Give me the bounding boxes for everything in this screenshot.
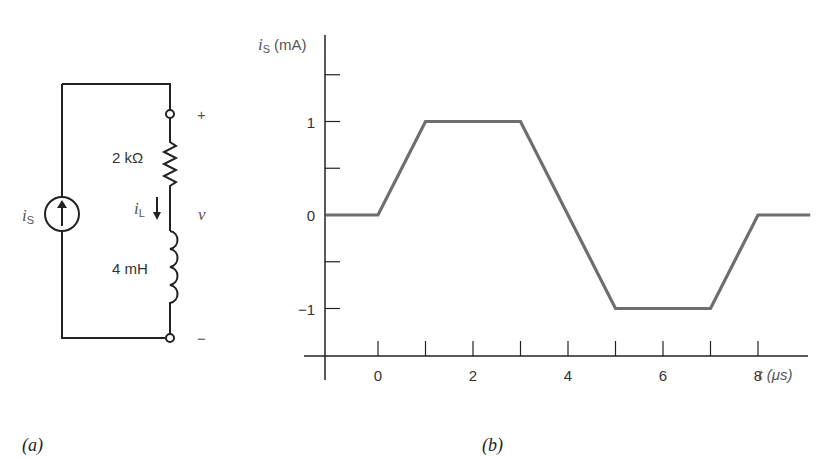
plus-sign: + [197, 106, 206, 123]
current-arrowhead [153, 212, 161, 220]
x-tick-label: 2 [469, 367, 477, 384]
x-tick-label: 6 [659, 367, 667, 384]
y-ticks: 10−1 [298, 75, 340, 318]
resistor-icon [164, 118, 176, 231]
caption-b: (b) [482, 435, 503, 456]
circuit-diagram [45, 84, 178, 342]
waveform-chart: 10−1 02468 [298, 35, 810, 384]
figure: iS 2 kΩ 4 mH iL v + − (a) 10−1 02468 iS(… [0, 0, 840, 459]
resistor-label: 2 kΩ [112, 149, 143, 166]
y-axis-label: iS(mA) [258, 35, 307, 55]
y-tick-label: −1 [298, 301, 315, 318]
y-tick-label: 0 [307, 207, 315, 224]
inductor-label: 4 mH [112, 260, 148, 277]
x-axis-label: t(μs) [758, 365, 792, 384]
minus-sign: − [197, 330, 206, 347]
x-ticks: 02468 [374, 341, 762, 384]
x-tick-label: 4 [564, 367, 572, 384]
terminal-top [166, 110, 174, 118]
inductor-icon [170, 231, 178, 334]
series-line-is [326, 122, 811, 309]
circuit-wire-top [62, 84, 170, 110]
y-tick-label: 1 [307, 114, 315, 131]
caption-a: (a) [22, 435, 43, 456]
x-tick-label: 0 [374, 367, 382, 384]
current-label: iL [134, 199, 145, 219]
voltage-label: v [198, 205, 206, 224]
terminal-bottom [166, 334, 174, 342]
source-label: iS [22, 206, 34, 226]
circuit-wire-left-bottom [62, 231, 165, 338]
